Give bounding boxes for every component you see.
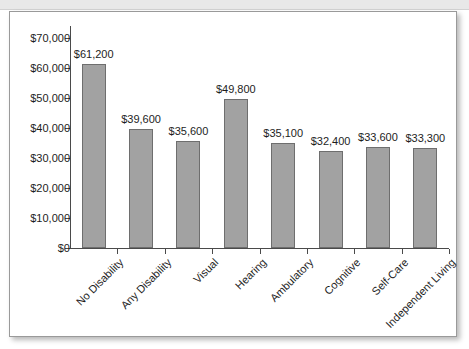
y-axis-tick-label-row: $20,000 xyxy=(10,183,70,194)
bar xyxy=(366,147,390,248)
y-axis-tick-label-row: $40,000 xyxy=(10,123,70,134)
chart-card: $0$10,000$20,000$30,000$40,000$50,000$60… xyxy=(9,11,457,337)
y-axis-tick-label-row: $60,000 xyxy=(10,63,70,74)
y-axis-tick-label: $20,000 xyxy=(18,183,70,194)
x-axis-category-label: Hearing xyxy=(175,256,268,349)
bar-value-label: $35,600 xyxy=(148,126,228,137)
x-axis-tick xyxy=(307,249,308,254)
x-axis-category-label: Any Disability xyxy=(80,256,173,349)
bar xyxy=(129,129,153,248)
y-axis-tick-label-row: $30,000 xyxy=(10,153,70,164)
x-axis-tick xyxy=(212,249,213,254)
x-axis-tick xyxy=(165,249,166,254)
y-axis-tick-label: $10,000 xyxy=(18,213,70,224)
x-axis-tick xyxy=(402,249,403,254)
x-axis-category-label: Visual xyxy=(127,256,220,349)
x-axis-tick xyxy=(354,249,355,254)
y-axis-tick-label: $60,000 xyxy=(18,63,70,74)
x-axis-tick xyxy=(260,249,261,254)
bar-value-label: $33,300 xyxy=(385,133,465,144)
x-axis-category-label: Cognitive xyxy=(269,256,362,349)
y-axis-tick-label-row: $50,000 xyxy=(10,93,70,104)
x-axis-category-label: Independent Living xyxy=(364,256,457,349)
x-axis-category-label: Self-Care xyxy=(317,256,410,349)
bar-value-label: $49,800 xyxy=(196,84,276,95)
y-axis-tick-label-row: $70,000 xyxy=(10,33,70,44)
bar xyxy=(224,99,248,248)
bar-value-label: $39,600 xyxy=(101,114,181,125)
bar xyxy=(82,64,106,248)
screenshot-root: $0$10,000$20,000$30,000$40,000$50,000$60… xyxy=(0,0,469,349)
y-axis-tick-label: $50,000 xyxy=(18,93,70,104)
bar xyxy=(176,141,200,248)
bar xyxy=(413,148,437,248)
y-axis-tick-label-row: $10,000 xyxy=(10,213,70,224)
bar xyxy=(319,151,343,248)
x-axis-category-label: No Disability xyxy=(33,256,126,349)
y-axis-tick-label: $40,000 xyxy=(18,123,70,134)
page-top-strip-edge xyxy=(0,9,469,10)
y-axis-tick-label: $0 xyxy=(18,243,70,254)
bar xyxy=(271,143,295,248)
page-top-strip xyxy=(0,0,469,9)
bar-chart: $0$10,000$20,000$30,000$40,000$50,000$60… xyxy=(10,12,458,338)
y-axis-tick-label-row: $0 xyxy=(10,243,70,254)
x-axis-tick xyxy=(449,249,450,254)
x-axis-tick xyxy=(117,249,118,254)
y-axis-tick-label: $70,000 xyxy=(18,33,70,44)
bar-value-label: $61,200 xyxy=(54,49,134,60)
y-axis-tick-label: $30,000 xyxy=(18,153,70,164)
x-axis-category-label: Ambulatory xyxy=(222,256,315,349)
